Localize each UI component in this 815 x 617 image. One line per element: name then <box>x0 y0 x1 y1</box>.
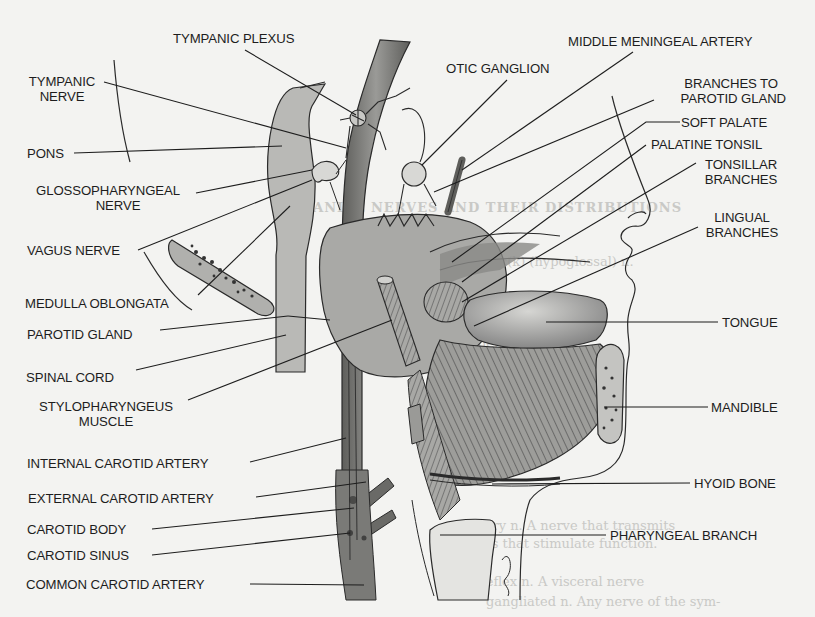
label-vagus-nerve: VAGUS NERVE <box>27 243 120 258</box>
anatomy-figure: CRANIAL NERVES AND THEIR DISTRIBUTIONS s… <box>0 0 815 617</box>
label-medulla-oblongata: MEDULLA OBLONGATA <box>25 296 169 311</box>
label-carotid-body: CAROTID BODY <box>27 522 126 537</box>
label-glossopharyngeal-nerve: GLOSSOPHARYNGEAL NERVE <box>22 183 194 213</box>
label-line: BRANCHES <box>694 172 788 187</box>
label-carotid-sinus: CAROTID SINUS <box>27 548 129 563</box>
label-parotid-gland: PAROTID GLAND <box>27 327 132 342</box>
label-internal-carotid-artery: INTERNAL CAROTID ARTERY <box>27 456 208 471</box>
label-tonsillar-branches: TONSILLAR BRANCHES <box>694 157 788 187</box>
label-soft-palate: SOFT PALATE <box>681 115 767 130</box>
label-stylopharyngeus-muscle: STYLOPHARYNGEUS MUSCLE <box>26 399 186 429</box>
label-line: STYLOPHARYNGEUS <box>26 399 186 414</box>
label-line: GLOSSOPHARYNGEAL <box>22 183 194 198</box>
label-lingual-branches: LINGUAL BRANCHES <box>698 210 786 240</box>
label-spinal-cord: SPINAL CORD <box>26 370 114 385</box>
label-pons: PONS <box>27 146 64 161</box>
label-line: TONSILLAR <box>694 157 788 172</box>
brainstem-shape <box>268 82 325 372</box>
label-external-carotid-artery: EXTERNAL CAROTID ARTERY <box>28 491 214 506</box>
label-palatine-tonsil: PALATINE TONSIL <box>651 137 762 152</box>
label-line: TYMPANIC <box>20 74 104 89</box>
label-pharyngeal-branch: PHARYNGEAL BRANCH <box>610 528 757 543</box>
label-middle-meningeal-artery: MIDDLE MENINGEAL ARTERY <box>568 34 752 49</box>
label-otic-ganglion: OTIC GANGLION <box>446 61 549 76</box>
label-line: MUSCLE <box>26 414 186 429</box>
label-line: BRANCHES <box>698 225 786 240</box>
label-line: NERVE <box>22 198 194 213</box>
label-common-carotid-artery: COMMON CAROTID ARTERY <box>26 577 204 592</box>
label-line: PAROTID GLAND <box>650 91 786 106</box>
label-tympanic-nerve: TYMPANIC NERVE <box>20 74 104 104</box>
label-line: NERVE <box>20 89 104 104</box>
label-mandible: MANDIBLE <box>711 400 778 415</box>
label-line: LINGUAL <box>698 210 786 225</box>
label-tympanic-plexus: TYMPANIC PLEXUS <box>173 31 294 46</box>
label-hyoid-bone: HYOID BONE <box>694 476 776 491</box>
label-branches-to-parotid-gland: BRANCHES TO PAROTID GLAND <box>650 76 786 106</box>
label-tongue: TONGUE <box>722 315 778 330</box>
label-line: BRANCHES TO <box>650 76 786 91</box>
